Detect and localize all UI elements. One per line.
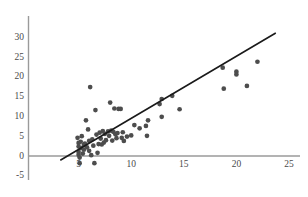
data-point [110, 138, 115, 143]
data-points-group [75, 59, 260, 165]
data-point [177, 107, 182, 112]
y-tick-label: -5 [0, 170, 24, 180]
data-point [112, 106, 117, 111]
data-point [120, 130, 125, 135]
data-point [79, 134, 84, 139]
x-tick-label: 25 [275, 159, 303, 169]
x-tick-label: 15 [170, 159, 198, 169]
data-point [137, 126, 142, 131]
y-tick-label: 5 [0, 131, 24, 141]
plot-area [0, 0, 308, 197]
data-point [255, 59, 260, 64]
x-tick-label: 10 [117, 159, 145, 169]
data-point [92, 161, 97, 166]
data-point [75, 135, 80, 140]
data-point [93, 108, 98, 113]
data-point [89, 153, 94, 158]
data-point [129, 133, 134, 138]
y-tick-label: 15 [0, 91, 24, 101]
data-point [95, 150, 100, 155]
data-point [87, 149, 92, 154]
y-tick-label: 0 [0, 151, 24, 161]
data-point [245, 84, 250, 89]
y-tick-label: 25 [0, 52, 24, 62]
x-tick-label: 5 [65, 159, 93, 169]
data-point [115, 131, 120, 136]
data-point [91, 143, 96, 148]
data-point [104, 138, 109, 143]
data-point [132, 123, 137, 128]
data-point [234, 72, 239, 77]
data-point [118, 107, 123, 112]
trend-line [61, 33, 276, 160]
data-point [144, 124, 149, 129]
y-tick-label: 30 [0, 32, 24, 42]
data-point [221, 86, 226, 91]
y-tick-label: 20 [0, 71, 24, 81]
data-point [108, 100, 113, 105]
data-point [146, 118, 151, 123]
data-point [84, 118, 89, 123]
scatter-chart: -5051015202530 510152025 [0, 0, 308, 197]
y-tick-label: 10 [0, 111, 24, 121]
data-point [125, 134, 130, 139]
data-point [88, 85, 93, 90]
data-point [114, 136, 119, 141]
data-point [121, 139, 126, 144]
data-point [145, 133, 150, 138]
data-point [86, 127, 91, 132]
x-tick-label: 20 [222, 159, 250, 169]
data-point [159, 114, 164, 119]
data-point [107, 133, 112, 138]
data-point [80, 151, 85, 156]
